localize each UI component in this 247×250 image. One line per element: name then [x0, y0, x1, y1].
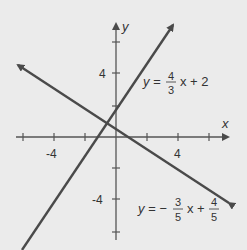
equation-label-1: y = 4 3 x + 2: [142, 70, 209, 96]
svg-text:y =: y =: [142, 74, 161, 89]
svg-text:4: 4: [168, 70, 174, 82]
y-tick-label-4: 4: [99, 67, 106, 81]
x-axis-label: x: [221, 116, 229, 131]
x-tick-label-neg4: -4: [46, 147, 57, 161]
x-tick-label-4: 4: [174, 147, 181, 161]
svg-text:3: 3: [175, 196, 181, 208]
svg-text:x + 2: x + 2: [180, 74, 209, 89]
svg-text:5: 5: [175, 211, 181, 223]
svg-text:5: 5: [211, 211, 217, 223]
equation-label-2: y = − 3 5 x + 4 5: [137, 196, 219, 223]
y-tick-label-neg4: -4: [92, 193, 103, 207]
svg-text:3: 3: [168, 84, 174, 96]
graph: -4 4 4 -4 x y y = 4 3 x + 2 y = − 3 5 x …: [0, 0, 247, 250]
svg-text:4: 4: [211, 196, 217, 208]
y-axis-label: y: [121, 19, 130, 34]
svg-text:x +: x +: [187, 201, 205, 216]
svg-text:y = −: y = −: [137, 201, 167, 216]
